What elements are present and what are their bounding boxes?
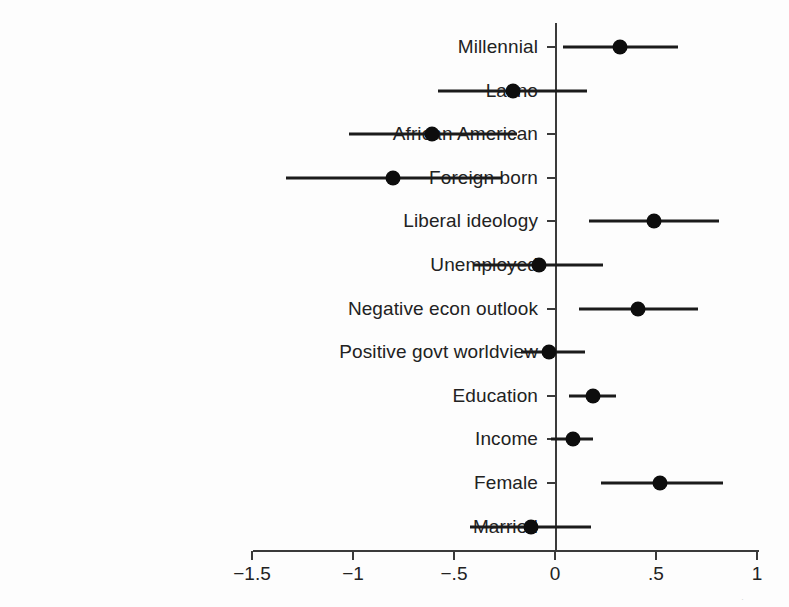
estimate-point bbox=[505, 83, 520, 98]
estimate-point bbox=[646, 214, 661, 229]
x-axis-line bbox=[253, 550, 759, 552]
estimate-point bbox=[566, 432, 581, 447]
estimate-point bbox=[531, 258, 546, 273]
estimate-point bbox=[612, 40, 627, 55]
x-axis-tick bbox=[453, 551, 455, 560]
estimate-point bbox=[523, 519, 538, 534]
x-axis-tick bbox=[251, 551, 253, 560]
estimate-point bbox=[586, 388, 601, 403]
x-axis-tick bbox=[554, 551, 556, 560]
corner-artifact: · bbox=[741, 594, 744, 604]
estimate-point bbox=[424, 127, 439, 142]
x-axis-tick bbox=[756, 551, 758, 560]
x-axis-tick bbox=[655, 551, 657, 560]
plot-area: MillennialLatinoAfrican AmericanForeign … bbox=[0, 0, 789, 607]
y-axis-tick-label: Married bbox=[0, 516, 789, 538]
y-axis-tick-label: Unemployed bbox=[0, 254, 789, 276]
y-axis-tick-label: Education bbox=[0, 385, 789, 407]
estimate-point bbox=[653, 476, 668, 491]
chart-figure: MillennialLatinoAfrican AmericanForeign … bbox=[0, 0, 789, 607]
y-axis-tick-label: Income bbox=[0, 428, 789, 450]
x-axis-tick-label: 1 bbox=[752, 563, 763, 585]
estimate-point bbox=[541, 345, 556, 360]
x-axis-tick-label: −1.5 bbox=[233, 563, 271, 585]
x-axis-tick-label: .5 bbox=[648, 563, 664, 585]
x-axis-tick bbox=[352, 551, 354, 560]
estimate-point bbox=[386, 170, 401, 185]
x-axis-tick-label: 0 bbox=[550, 563, 561, 585]
x-axis-tick-label: −1 bbox=[342, 563, 364, 585]
y-axis-tick-label: Latino bbox=[0, 80, 789, 102]
y-axis-tick-label: Positive govt worldview bbox=[0, 341, 789, 363]
x-axis-tick-label: −.5 bbox=[441, 563, 468, 585]
estimate-point bbox=[630, 301, 645, 316]
